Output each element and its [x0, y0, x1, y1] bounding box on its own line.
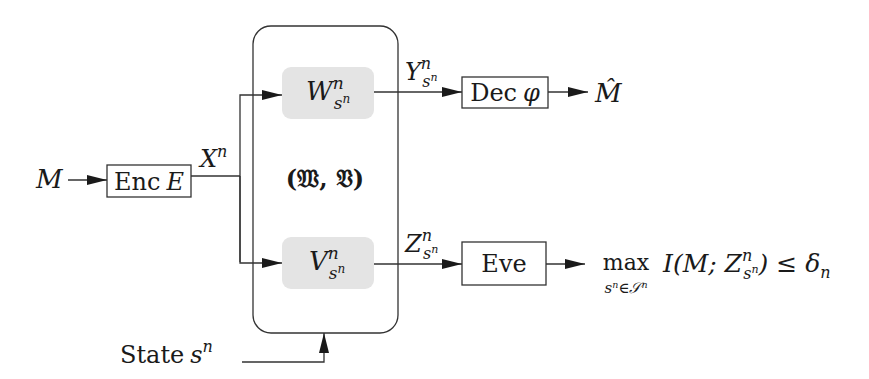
secrecy-constraint: max sⁿ∈𝒮ⁿ I(M; Znsn) ≤ δn — [603, 246, 831, 297]
eavesdropper-block: Eve — [462, 242, 546, 285]
max-operator: max — [603, 250, 650, 275]
channel-pair-label: (𝔚, 𝔙) — [286, 164, 364, 193]
svg-text:I(M; Znsn) ≤ δn: I(M; Znsn) ≤ δn — [662, 246, 831, 283]
encoder-label: Enc — [114, 168, 160, 196]
svg-text:Ynsn: Ynsn — [405, 54, 437, 91]
state-label: State — [120, 341, 184, 369]
eve-channel-block: Vnsn — [282, 237, 374, 289]
split-to-eve-wire — [240, 176, 282, 263]
svg-text:EncE: EncE — [114, 168, 184, 196]
encoder-output-label: Xn — [198, 142, 227, 173]
decoded-message-label: M̂ — [594, 78, 623, 108]
decoder-block: Decφ — [462, 77, 548, 108]
diagram-canvas: M EncE Xn Wnsn (𝔚, 𝔙) Vnsn Ynsn — [0, 0, 869, 379]
encoder-block: EncE — [107, 165, 191, 197]
split-to-legit-wire — [240, 95, 282, 262]
state-symbol: s — [190, 341, 202, 369]
state-arrow — [242, 333, 324, 362]
input-message-label: M — [35, 164, 64, 194]
max-subscript: sⁿ∈𝒮ⁿ — [605, 279, 648, 297]
mutual-information-expr: I(M; Z — [662, 249, 743, 278]
decoder-symbol: φ — [523, 79, 540, 107]
eavesdropper-label: Eve — [481, 250, 526, 278]
encoder-symbol: E — [165, 168, 184, 196]
svg-text:Znsn: Znsn — [404, 226, 438, 263]
svg-text:Decφ: Decφ — [470, 79, 540, 107]
legit-channel-label: W — [306, 76, 335, 106]
svg-text:Statesn: Statesn — [120, 337, 213, 369]
eve-output-label: Z — [404, 230, 423, 258]
decoder-label: Dec — [470, 79, 517, 107]
legit-channel-block: Wnsn — [282, 67, 374, 119]
